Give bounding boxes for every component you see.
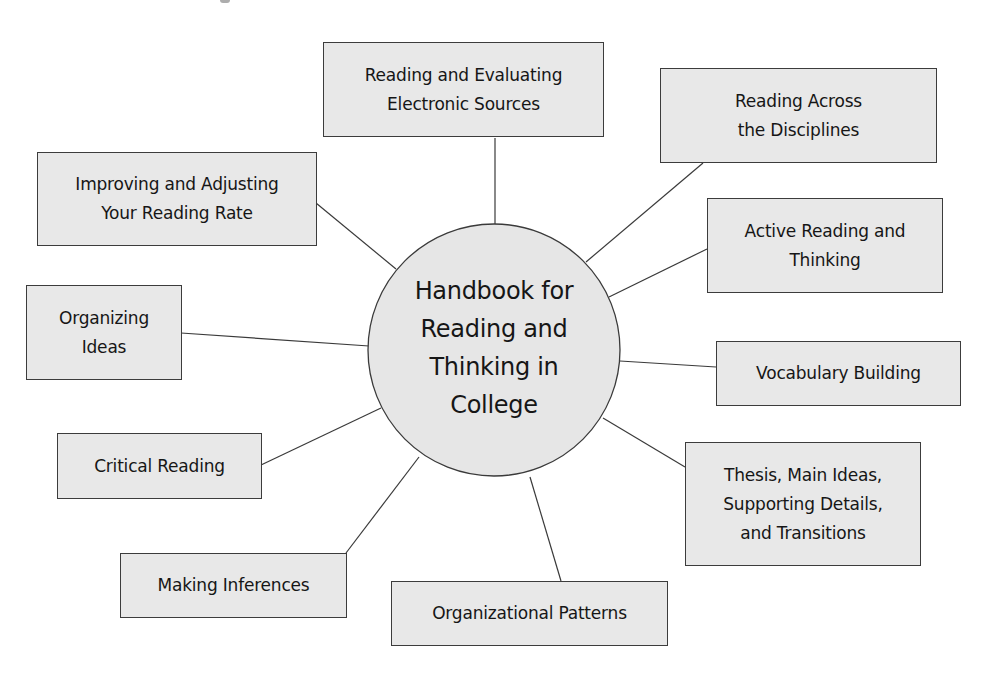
node-label-line: and Transitions: [723, 519, 882, 548]
node-label-line: Organizational Patterns: [432, 599, 627, 628]
connector-active-reading: [609, 249, 707, 297]
node-label-line: Improving and Adjusting: [75, 170, 278, 199]
hub-label-line: Thinking in: [379, 348, 609, 386]
node-label-line: Vocabulary Building: [756, 359, 921, 388]
node-label-line: Reading Across: [735, 87, 862, 116]
node-label-line: Thesis, Main Ideas,: [723, 461, 882, 490]
node-label-line: Making Inferences: [158, 571, 310, 600]
connector-organizing-ideas: [181, 333, 369, 346]
connector-thesis-main-ideas: [603, 418, 685, 467]
node-active-reading: Active Reading and Thinking: [707, 198, 943, 293]
node-reading-rate: Improving and Adjusting Your Reading Rat…: [37, 152, 317, 246]
node-across-disciplines: Reading Across the Disciplines: [660, 68, 937, 163]
node-label-line: Ideas: [59, 333, 149, 362]
connector-across-disciplines: [586, 163, 703, 262]
node-organizing-ideas: Organizing Ideas: [26, 285, 182, 380]
node-electronic-sources: Reading and Evaluating Electronic Source…: [323, 42, 604, 137]
node-label-line: Active Reading and: [745, 217, 906, 246]
connector-making-inferences: [346, 457, 419, 553]
node-vocabulary: Vocabulary Building: [716, 341, 961, 406]
node-thesis-main-ideas: Thesis, Main Ideas, Supporting Details, …: [685, 442, 921, 566]
hub-label: Handbook for Reading and Thinking in Col…: [379, 272, 609, 424]
node-label-line: the Disciplines: [735, 116, 862, 145]
connector-reading-rate: [316, 203, 396, 269]
node-label-line: Supporting Details,: [723, 490, 882, 519]
node-organizational-patterns: Organizational Patterns: [391, 581, 668, 646]
connector-critical-reading: [261, 408, 381, 465]
node-label-line: Organizing: [59, 304, 149, 333]
node-critical-reading: Critical Reading: [57, 433, 262, 499]
hub-label-line: Handbook for: [379, 272, 609, 310]
connector-organizational-patterns: [530, 477, 561, 581]
node-label-line: Critical Reading: [94, 452, 225, 481]
hub-label-line: College: [379, 386, 609, 424]
hub-label-line: Reading and: [379, 310, 609, 348]
node-label-line: Your Reading Rate: [75, 199, 278, 228]
node-label-line: Electronic Sources: [365, 90, 562, 119]
node-label-line: Reading and Evaluating: [365, 61, 562, 90]
node-making-inferences: Making Inferences: [120, 553, 347, 618]
connector-vocabulary: [620, 361, 716, 367]
node-label-line: Thinking: [745, 246, 906, 275]
